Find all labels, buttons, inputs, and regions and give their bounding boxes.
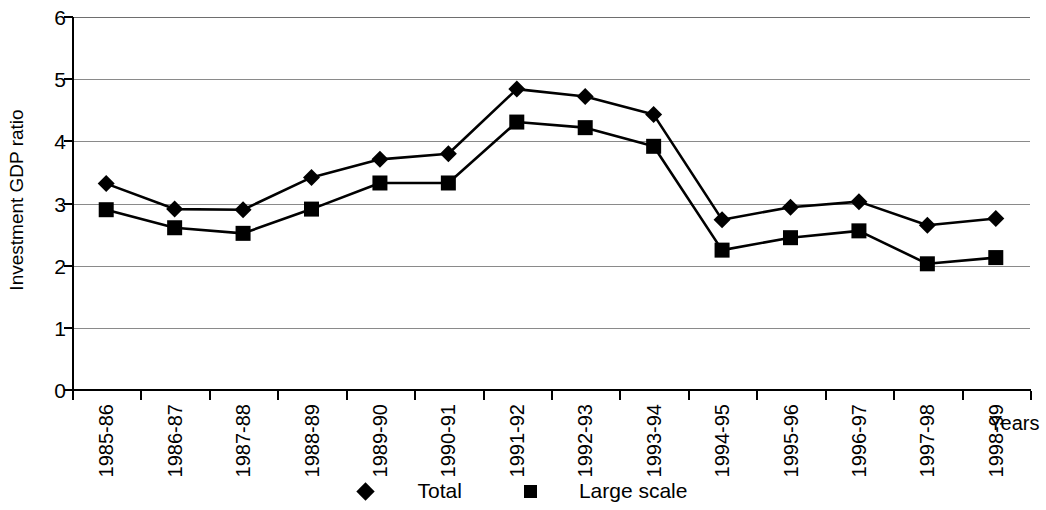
- gridline: [72, 17, 1030, 18]
- y-tick-mark: [64, 78, 73, 80]
- x-tick-label-text: 1996-97: [849, 404, 869, 477]
- x-tick-label-text: 1985-86: [96, 404, 116, 477]
- y-tick-mark: [64, 265, 73, 267]
- gridline: [72, 266, 1030, 267]
- x-tick-mark: [209, 391, 211, 400]
- x-tick-label-text: 1989-90: [370, 404, 390, 477]
- y-tick-label: 6: [40, 7, 66, 28]
- x-tick-mark: [72, 391, 74, 400]
- chart-legend: Total Large scale: [0, 474, 1046, 508]
- y-tick-label: 1: [40, 317, 66, 338]
- y-axis-label-text: Investment GDP ratio: [6, 109, 28, 290]
- y-axis-label: Investment GDP ratio: [0, 0, 34, 400]
- x-tick-label-text: 1987-88: [233, 404, 253, 477]
- y-axis-tick-labels: 0123456: [34, 0, 66, 400]
- x-tick-mark: [346, 391, 348, 400]
- y-tick-label: 5: [40, 69, 66, 90]
- legend-label-large-scale: Large scale: [579, 479, 688, 503]
- x-tick-label-text: 1990-91: [438, 404, 458, 477]
- x-tick-label-text: 1992-93: [575, 404, 595, 477]
- x-tick-mark: [483, 391, 485, 400]
- x-tick-label-text: 1988-89: [302, 404, 322, 477]
- x-tick-mark: [414, 391, 416, 400]
- x-tick-label-text: 1993-94: [644, 404, 664, 477]
- legend-entry-total: Total: [359, 479, 462, 503]
- x-tick-label-text: 1991-92: [507, 404, 527, 477]
- x-tick-label-text: 1995-96: [781, 404, 801, 477]
- gridline: [72, 204, 1030, 205]
- x-tick-label-text: 1994-95: [712, 404, 732, 477]
- investment-gdp-ratio-line-chart: Investment GDP ratio 0123456 1985-861986…: [0, 0, 1046, 510]
- gridline: [72, 141, 1030, 142]
- gridline: [72, 79, 1030, 80]
- x-tick-mark: [1030, 391, 1032, 400]
- x-tick-mark: [140, 391, 142, 400]
- y-tick-label: 2: [40, 255, 66, 276]
- gridline: [72, 328, 1030, 329]
- y-tick-label: 3: [40, 193, 66, 214]
- plot-area: [72, 17, 1030, 390]
- square-marker-icon: [524, 485, 537, 498]
- y-tick-mark: [64, 327, 73, 329]
- diamond-marker-icon: [356, 482, 374, 500]
- x-axis-label: Years: [989, 412, 1039, 435]
- legend-label-total: Total: [418, 479, 462, 503]
- x-tick-label-text: 1986-87: [165, 404, 185, 477]
- y-tick-label: 0: [40, 380, 66, 401]
- x-tick-label-text: 1997-98: [917, 404, 937, 477]
- x-tick-mark: [893, 391, 895, 400]
- x-tick-mark: [825, 391, 827, 400]
- y-tick-label: 4: [40, 131, 66, 152]
- x-tick-mark: [962, 391, 964, 400]
- y-tick-mark: [64, 16, 73, 18]
- x-tick-mark: [756, 391, 758, 400]
- x-tick-mark: [619, 391, 621, 400]
- legend-entry-large-scale: Large scale: [462, 479, 688, 503]
- x-tick-mark: [688, 391, 690, 400]
- y-tick-mark: [64, 203, 73, 205]
- x-tick-mark: [551, 391, 553, 400]
- y-tick-mark: [64, 140, 73, 142]
- x-tick-mark: [277, 391, 279, 400]
